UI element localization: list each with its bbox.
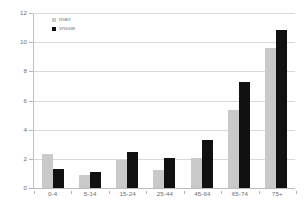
- y-tick-label: 6: [23, 97, 27, 103]
- bar-man: [191, 158, 202, 188]
- bar-man: [79, 175, 90, 188]
- y-tick-label: 12: [20, 10, 27, 16]
- bar-group: [183, 13, 220, 188]
- y-tick-mark: [29, 188, 33, 189]
- legend-item-man: man: [52, 17, 75, 23]
- y-tick-label: 2: [23, 156, 27, 162]
- bar-group: [109, 13, 146, 188]
- bar-group: [34, 13, 71, 188]
- x-tick-label: 75+: [259, 191, 296, 197]
- bar-group: [146, 13, 183, 188]
- x-tick-label: 65-74: [221, 191, 258, 197]
- bar-vrouw: [239, 82, 250, 188]
- bar-vrouw: [90, 172, 101, 188]
- bar-vrouw: [53, 169, 64, 188]
- vrouw-swatch-icon: [52, 27, 56, 31]
- bar-vrouw: [202, 140, 213, 188]
- y-tick-mark: [29, 42, 33, 43]
- x-tick-mark: [184, 191, 185, 194]
- bar-chart: 024681012 0-45-1415-2425-4445-6465-7475+…: [0, 0, 304, 214]
- plot-area: 024681012: [33, 13, 295, 188]
- legend-label-vrouw: vrouw: [59, 26, 75, 32]
- bar-man: [228, 110, 239, 188]
- y-tick-mark: [29, 130, 33, 131]
- bar-group: [71, 13, 108, 188]
- legend-label-man: man: [59, 17, 71, 23]
- x-tick-label: 5-14: [71, 191, 108, 197]
- x-tick-label: 25-44: [146, 191, 183, 197]
- y-tick-mark: [29, 13, 33, 14]
- man-swatch-icon: [52, 18, 56, 22]
- bar-vrouw: [164, 158, 175, 188]
- x-tick-mark: [71, 191, 72, 194]
- bar-man: [265, 48, 276, 188]
- x-tick-label: 0-4: [34, 191, 71, 197]
- chart-legend: man vrouw: [52, 17, 75, 32]
- bar-groups: [34, 13, 295, 188]
- gridline: [33, 188, 295, 189]
- y-tick-mark: [29, 71, 33, 72]
- bar-vrouw: [127, 152, 138, 188]
- x-tick-mark: [296, 191, 297, 194]
- x-tick-mark: [221, 191, 222, 194]
- x-axis-labels: 0-45-1415-2425-4445-6465-7475+: [34, 191, 296, 197]
- bar-group: [220, 13, 257, 188]
- bar-vrouw: [276, 30, 287, 188]
- x-tick-label: 45-64: [184, 191, 221, 197]
- bar-man: [116, 160, 127, 188]
- y-tick-label: 4: [23, 127, 27, 133]
- y-tick-label: 10: [20, 39, 27, 45]
- y-tick-label: 0: [23, 185, 27, 191]
- x-tick-mark: [34, 191, 35, 194]
- x-tick-mark: [259, 191, 260, 194]
- x-tick-label: 15-24: [109, 191, 146, 197]
- x-tick-mark: [109, 191, 110, 194]
- bar-man: [153, 170, 164, 188]
- x-tick-mark: [146, 191, 147, 194]
- bar-group: [258, 13, 295, 188]
- y-tick-label: 8: [23, 68, 27, 74]
- y-tick-mark: [29, 101, 33, 102]
- y-tick-mark: [29, 159, 33, 160]
- bar-man: [42, 154, 53, 188]
- legend-item-vrouw: vrouw: [52, 26, 75, 32]
